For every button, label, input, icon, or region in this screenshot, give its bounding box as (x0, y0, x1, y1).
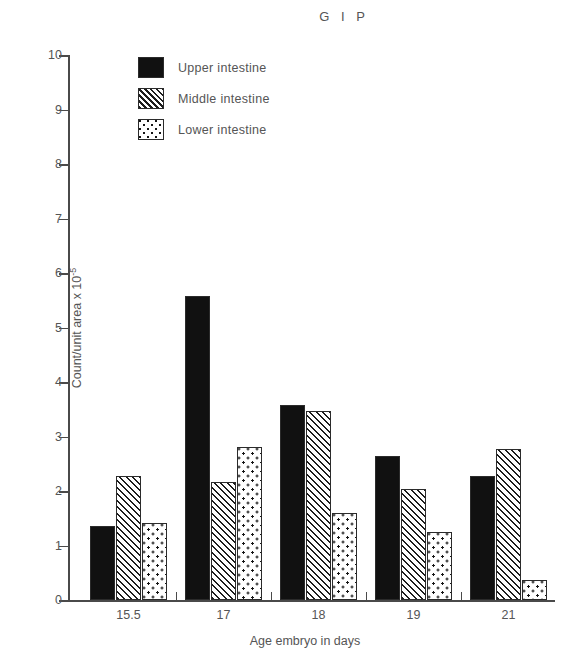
y-tick-label: 8 (55, 157, 62, 171)
x-tick-label-19: 19 (407, 608, 421, 622)
y-axis-label: Count/unit area x 10-5 (68, 267, 84, 388)
legend-label: Upper intestine (178, 61, 267, 75)
y-axis-label-exponent: -5 (68, 267, 78, 275)
chart-legend: Upper intestineMiddle intestineLower int… (138, 52, 270, 145)
y-tick-label: 5 (55, 321, 62, 335)
bar-middle-18 (306, 411, 331, 600)
y-tick-label: 10 (48, 48, 62, 62)
legend-label: Lower intestine (178, 123, 267, 137)
bar-lower-19 (427, 532, 452, 600)
legend-item-lower: Lower intestine (138, 114, 270, 145)
bar-upper-17 (185, 296, 210, 600)
bar-middle-15.5 (116, 476, 141, 600)
y-tick-label: 7 (55, 212, 62, 226)
bar-lower-21 (522, 580, 547, 600)
bar-upper-19 (375, 456, 400, 600)
chart-figure: G I P Count/unit area x 10-5 01234567891… (0, 0, 568, 657)
bar-middle-17 (211, 482, 236, 600)
y-tick-label: 6 (55, 266, 62, 280)
bar-middle-19 (401, 489, 426, 600)
bar-upper-21 (470, 476, 495, 600)
y-tick-label: 2 (55, 484, 62, 498)
chart-title: G I P (0, 9, 568, 24)
x-group-separator (176, 592, 177, 600)
bar-lower-15.5 (142, 523, 167, 600)
legend-label: Middle intestine (178, 92, 270, 106)
legend-item-upper: Upper intestine (138, 52, 270, 83)
x-tick-label-15.5: 15.5 (116, 608, 140, 622)
bar-upper-15.5 (90, 526, 115, 600)
x-axis-line (68, 600, 555, 602)
y-tick-label: 1 (55, 539, 62, 553)
x-tick-label-17: 17 (217, 608, 231, 622)
x-axis-label: Age embryo in days (0, 634, 568, 648)
x-group-separator (366, 592, 367, 600)
x-group-separator (271, 592, 272, 600)
legend-item-middle: Middle intestine (138, 83, 270, 114)
y-tick-label: 0 (55, 593, 62, 607)
bar-lower-18 (332, 513, 357, 600)
y-tick-label: 3 (55, 430, 62, 444)
bar-middle-21 (496, 449, 521, 601)
bar-lower-17 (237, 447, 262, 600)
legend-swatch-middle-icon (138, 88, 164, 109)
x-group-separator (461, 592, 462, 600)
x-tick-label-21: 21 (502, 608, 516, 622)
y-axis-label-text: Count/unit area x 10 (70, 275, 84, 388)
bar-upper-18 (280, 405, 305, 600)
x-tick-label-18: 18 (312, 608, 326, 622)
y-tick-label: 4 (55, 375, 62, 389)
legend-swatch-lower-icon (138, 119, 164, 140)
legend-swatch-upper-icon (138, 57, 164, 78)
y-tick-label: 9 (55, 103, 62, 117)
